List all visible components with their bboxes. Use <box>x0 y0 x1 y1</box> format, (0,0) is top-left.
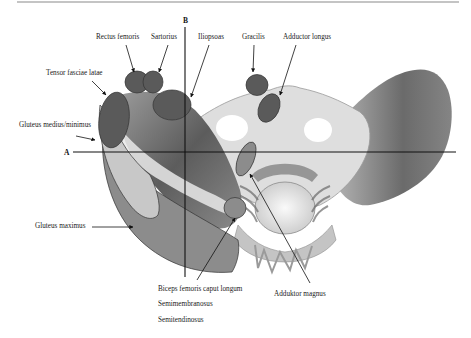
left-foramen <box>216 115 248 141</box>
right-foramen <box>304 118 332 142</box>
label-semimembranosus: Semimembranosus <box>158 300 213 308</box>
leader-arrow-gluteus-medius-minimus <box>76 136 95 140</box>
label-gluteus-maximus: Gluteus maximus <box>35 222 86 230</box>
label-semitendinosus: Semitendinosus <box>158 316 204 324</box>
leader-arrow-sartorius <box>159 45 168 72</box>
axis-a-label: A <box>64 148 70 157</box>
label-tensor-fasciae-latae: Tensor fasciae latae <box>46 69 103 77</box>
label-gluteus-medius-minimus: Gluteus medius/minimus <box>19 121 91 129</box>
hamstring-muscle-group <box>224 198 246 219</box>
label-adduktor-magnus: Adduktor magnus <box>274 290 326 298</box>
leader-arrow-gracilis <box>253 45 254 72</box>
label-biceps-femoris: Biceps femoris caput longum <box>158 285 243 293</box>
leader-arrow-rectus-femoris <box>126 45 134 72</box>
label-iliopsoas: Iliopsoas <box>198 33 224 41</box>
label-adductor-longus: Adductor longus <box>283 33 331 41</box>
label-rectus-femoris: Rectus femoris <box>96 33 140 41</box>
vertebral-body <box>255 182 315 234</box>
anatomical-cross-section-figure: A B Rectus femorisSartoriusIliopsoasGrac… <box>0 0 471 338</box>
label-sartorius: Sartorius <box>151 33 177 41</box>
leader-arrow-iliopsoas <box>191 45 209 97</box>
axis-b-label: B <box>183 16 188 25</box>
figure-canvas: A B Rectus femorisSartoriusIliopsoasGrac… <box>0 0 471 338</box>
label-gracilis: Gracilis <box>242 33 265 41</box>
gracilis-muscle <box>246 75 268 96</box>
leader-arrow-tensor-fasciae-latae <box>92 81 106 95</box>
sartorius-muscle <box>143 71 163 93</box>
